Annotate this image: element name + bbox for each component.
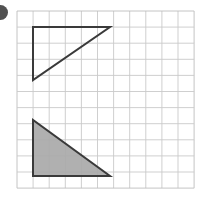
- worksheet-figure-panel: [0, 0, 207, 209]
- triangle-shaded: [33, 120, 110, 176]
- triangles-group: [33, 27, 110, 176]
- grid-figure-svg: [0, 0, 207, 209]
- triangle-outline: [33, 27, 110, 80]
